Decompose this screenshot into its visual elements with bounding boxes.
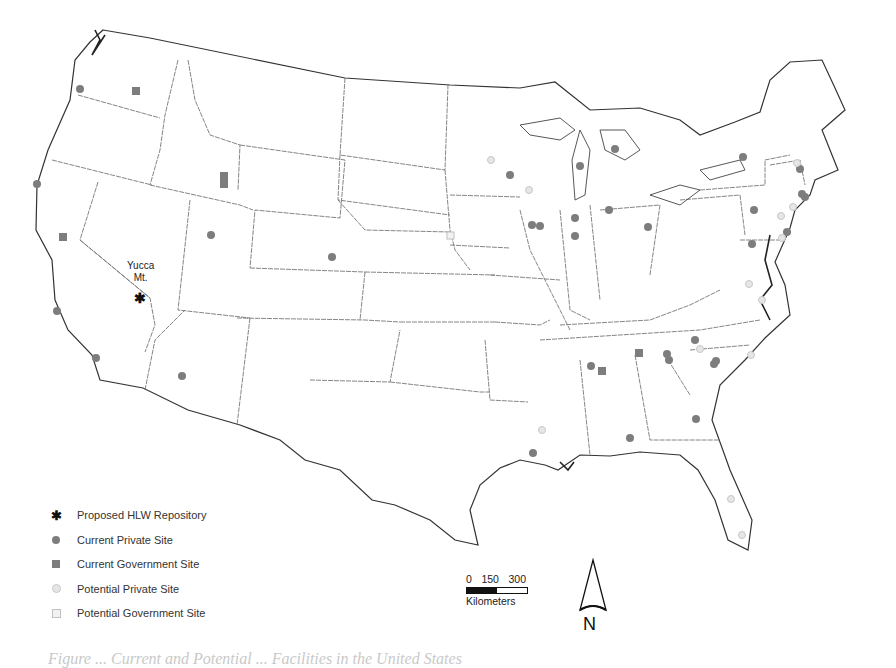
legend-label: Current Government Site (77, 558, 199, 570)
north-label: N (583, 614, 596, 635)
star-icon: ✱ (51, 509, 62, 522)
country-outline (36, 30, 845, 550)
current-government-sites (59, 87, 643, 375)
map-legend: ✱ Proposed HLW Repository Current Privat… (50, 503, 206, 626)
light-circle-icon (52, 584, 61, 593)
potential-government-sites (447, 232, 454, 239)
legend-item-current-government: Current Government Site (50, 552, 206, 577)
figure-caption: Figure ... Current and Potential ... Fac… (48, 650, 868, 668)
legend-label: Proposed HLW Repository (77, 509, 206, 521)
scale-graphic (466, 587, 528, 594)
scale-unit: Kilometers (466, 595, 528, 607)
scale-bar: 0 150 300 Kilometers (466, 573, 528, 607)
legend-label: Current Private Site (77, 534, 173, 546)
gray-circle-icon (52, 536, 60, 544)
legend-item-potential-private: Potential Private Site (50, 577, 206, 602)
site-markers: ✱ (33, 85, 809, 539)
legend-item-potential-government: Potential Government Site (50, 601, 206, 626)
legend-label: Potential Private Site (77, 583, 179, 595)
state-borders (52, 60, 805, 455)
gray-square-icon (52, 560, 60, 568)
legend-label: Potential Government Site (77, 607, 205, 619)
scale-ticks: 0 150 300 (466, 573, 526, 585)
legend-item-current-private: Current Private Site (50, 528, 206, 553)
yucca-mt-label: Yucca Mt. (127, 260, 154, 284)
legend-item-repository: ✱ Proposed HLW Repository (50, 503, 206, 528)
yucca-repository-star-icon: ✱ (134, 290, 146, 306)
light-square-icon (52, 609, 61, 618)
